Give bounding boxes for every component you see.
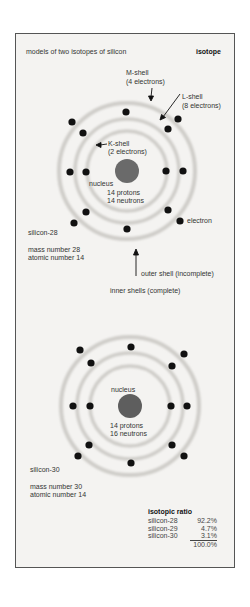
ratio-row: silicon-30 3.1% xyxy=(148,532,217,541)
l-shell-label: L-shell xyxy=(182,93,203,101)
nucleus-label: nucleus xyxy=(89,180,113,188)
ratio-row: silicon-29 4.7% xyxy=(148,525,217,533)
l-shell-count: (8 electrons) xyxy=(182,102,221,110)
nucleus-label: nucleus xyxy=(111,386,135,394)
isotopic-ratio-title: isotopic ratio xyxy=(148,508,192,516)
protons-label: 14 protons xyxy=(110,422,143,430)
neutrons-label: 16 neutrons xyxy=(110,430,147,438)
nucleus-icon xyxy=(118,394,142,418)
ratio-isotope: silicon-28 xyxy=(148,517,190,525)
ratio-isotope: silicon-29 xyxy=(148,525,190,533)
electron-label: electron xyxy=(187,217,212,225)
ratio-value: 4.7% xyxy=(190,525,217,533)
diagram-title: models of two isotopes of silicon xyxy=(26,48,126,56)
atomic-number: atomic number 14 xyxy=(30,491,86,499)
mass-number: mass number 30 xyxy=(30,483,82,491)
ratio-total-row: 100.0% xyxy=(148,541,217,549)
ratio-value: 92.2% xyxy=(190,517,217,525)
ratio-isotope: silicon-30 xyxy=(148,532,190,541)
k-shell-count: (2 electrons) xyxy=(108,148,147,156)
isotope-name: silicon-28 xyxy=(28,229,58,237)
isotopic-ratio-table: silicon-28 92.2% silicon-29 4.7% silicon… xyxy=(148,517,217,548)
k-shell-label: K-shell xyxy=(108,140,129,148)
neutrons-label: 14 neutrons xyxy=(107,197,144,205)
ratio-total: 100.0% xyxy=(190,541,217,549)
outer-shell-note: outer shell (incomplete) xyxy=(141,270,214,278)
nucleus-icon xyxy=(115,159,139,183)
m-shell-count: (4 electrons) xyxy=(126,78,165,86)
inner-shells-note: inner shells (complete) xyxy=(110,287,180,295)
protons-label: 14 protons xyxy=(107,189,140,197)
m-shell-label: M-shell xyxy=(126,69,149,77)
mass-number: mass number 28 xyxy=(28,246,80,254)
atomic-number: atomic number 14 xyxy=(28,254,84,262)
isotope-name: silicon-30 xyxy=(30,466,60,474)
ratio-value: 3.1% xyxy=(190,532,217,541)
atom-diagrams xyxy=(0,0,250,607)
category-label: isotope xyxy=(196,48,221,56)
ratio-row: silicon-28 92.2% xyxy=(148,517,217,525)
atom-silicon-30 xyxy=(61,337,199,475)
